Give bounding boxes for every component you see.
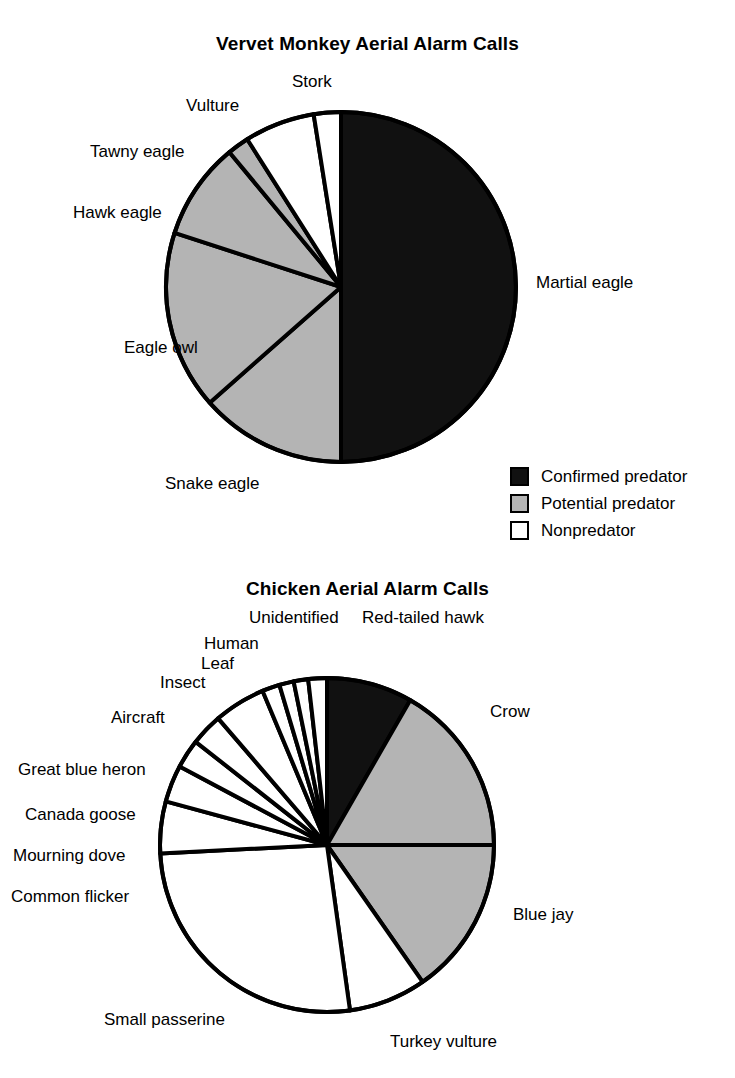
pie-slice: [314, 112, 341, 287]
label-leaf: Leaf: [201, 654, 234, 674]
label-red-tailed-hawk: Red-tailed hawk: [362, 608, 484, 628]
legend-label-potential-predator: Potential predator: [541, 494, 675, 514]
legend-label-nonpredator: Nonpredator: [541, 521, 636, 541]
pie-slice: [160, 845, 350, 1012]
label-unidentified: Unidentified: [249, 608, 339, 628]
legend-item-nonpredator: Nonpredator: [510, 517, 687, 544]
legend-swatch-gray-icon: [510, 494, 529, 513]
label-canada-goose: Canada goose: [25, 805, 136, 825]
pie-slice: [210, 287, 341, 462]
label-insect: Insect: [160, 673, 205, 693]
pie-slice: [175, 152, 341, 287]
label-martial-eagle: Martial eagle: [536, 273, 633, 293]
pie-slice: [160, 801, 327, 853]
chart1-title: Vervet Monkey Aerial Alarm Calls: [0, 33, 735, 55]
pie-outline: [160, 678, 494, 1012]
label-tawny-eagle: Tawny eagle: [90, 142, 185, 162]
pie-outline: [166, 112, 516, 462]
label-human: Human: [204, 634, 259, 654]
label-blue-jay: Blue jay: [513, 905, 573, 925]
pie-slice: [294, 679, 327, 845]
pie-slice: [166, 766, 327, 845]
pie-slice: [229, 139, 341, 287]
label-hawk-eagle: Hawk eagle: [73, 203, 162, 223]
pie-slice: [263, 685, 327, 845]
label-turkey-vulture: Turkey vulture: [390, 1032, 497, 1052]
label-vulture: Vulture: [186, 96, 239, 116]
pie-slice: [166, 233, 341, 403]
pie-slice: [308, 678, 327, 845]
label-great-blue-heron: Great blue heron: [18, 760, 146, 780]
pie-slice: [327, 678, 410, 845]
label-mourning-dove: Mourning dove: [13, 846, 125, 866]
pie-slice: [327, 845, 494, 982]
pie-slice: [180, 742, 327, 845]
pie-slice: [196, 718, 327, 845]
label-small-passerine: Small passerine: [104, 1010, 225, 1030]
pie-slice: [327, 700, 494, 845]
legend-swatch-black-icon: [510, 467, 529, 486]
legend-item-confirmed-predator: Confirmed predator: [510, 463, 687, 490]
pie-slice: [218, 691, 327, 845]
label-stork: Stork: [292, 72, 332, 92]
chart2-title: Chicken Aerial Alarm Calls: [0, 578, 735, 600]
pie-slice: [247, 114, 341, 287]
label-eagle-owl: Eagle owl: [124, 338, 198, 358]
pie-slice: [341, 112, 516, 462]
legend-swatch-white-icon: [510, 521, 529, 540]
label-snake-eagle: Snake eagle: [165, 474, 260, 494]
pie-slice: [327, 845, 423, 1010]
label-aircraft: Aircraft: [111, 708, 165, 728]
predator-class-legend: Confirmed predator Potential predator No…: [510, 463, 687, 544]
legend-label-confirmed-predator: Confirmed predator: [541, 467, 687, 487]
label-crow: Crow: [490, 702, 530, 722]
label-common-flicker: Common flicker: [11, 887, 129, 907]
pie-slice: [279, 681, 327, 845]
legend-item-potential-predator: Potential predator: [510, 490, 687, 517]
